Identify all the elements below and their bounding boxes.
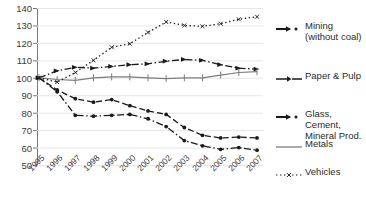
y-tick-label: 140	[8, 3, 32, 14]
y-tick-label: 60	[8, 142, 32, 153]
legend-dash-arrow-marker	[276, 71, 302, 83]
legend-item[interactable]: Mining (without coal)	[276, 20, 362, 42]
y-tick-label: 70	[8, 125, 32, 136]
y-tick-label: 100	[8, 72, 32, 83]
legend-item-label: Glass, Cement, Mineral Prod.	[305, 108, 362, 141]
legend-item[interactable]: Metals	[276, 138, 333, 150]
legend-item-label: Vehicles	[305, 166, 340, 177]
y-tick-label: 90	[8, 90, 32, 101]
x-axis-labels: 1995199619971998199920002001200220032004…	[37, 166, 263, 208]
y-tick-label: 80	[8, 107, 32, 118]
chart-legend: Mining (without coal)Paper & PulpGlass, …	[276, 8, 366, 178]
legend-dash-dot-arrow-marker	[276, 21, 302, 33]
series-lines	[37, 8, 263, 165]
legend-item[interactable]: Glass, Cement, Mineral Prod.	[276, 108, 362, 141]
legend-dash-dot-dot-marker	[276, 109, 302, 121]
legend-solid-line-marker	[276, 139, 302, 151]
y-tick-label: 120	[8, 37, 32, 48]
y-tick-label: 110	[8, 55, 32, 66]
legend-item-label: Metals	[305, 138, 333, 149]
legend-dotted-x-marker	[276, 167, 302, 179]
legend-item-label: Mining (without coal)	[305, 20, 362, 42]
plot-area	[37, 8, 263, 165]
legend-item[interactable]: Vehicles	[276, 166, 340, 178]
y-tick-label: 130	[8, 20, 32, 31]
legend-item[interactable]: Paper & Pulp	[276, 70, 361, 82]
chart-root: 1401301201101009080706050 19951996199719…	[0, 0, 366, 208]
legend-item-label: Paper & Pulp	[305, 70, 361, 81]
y-axis-labels: 1401301201101009080706050	[6, 8, 32, 165]
